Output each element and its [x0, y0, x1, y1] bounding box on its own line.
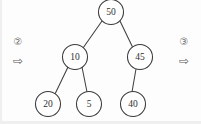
tree-node: 10 — [63, 45, 88, 70]
tree-edge — [82, 67, 87, 92]
tree-node: 50 — [99, 0, 124, 25]
right-arrow-icon: ⇨ — [13, 54, 23, 68]
right-margin-marker: ③ ⇨ — [179, 36, 189, 68]
left-margin-marker: ② ⇨ — [13, 36, 23, 68]
tree-edge — [132, 69, 136, 92]
circled-number-three-icon: ③ — [180, 36, 189, 47]
tree-node: 5 — [77, 92, 102, 117]
tree-node: 45 — [128, 45, 153, 70]
tree-edge — [55, 67, 68, 94]
right-arrow-icon: ⇨ — [179, 54, 189, 68]
binary-tree-diagram: 50104520540 ② ⇨ ③ ⇨ — [0, 0, 201, 124]
node-label: 5 — [87, 99, 92, 109]
tree-edge — [83, 21, 102, 48]
node-label: 50 — [106, 7, 116, 17]
node-label: 10 — [70, 52, 80, 62]
node-label: 45 — [135, 52, 145, 62]
node-label: 40 — [128, 99, 138, 109]
circled-number-two-icon: ② — [14, 36, 23, 47]
tree-node: 20 — [36, 92, 61, 117]
tree-diagram-canvas: 50104520540 ② ⇨ ③ ⇨ — [0, 0, 201, 124]
tree-node: 40 — [121, 92, 146, 117]
tree-nodes: 50104520540 — [36, 0, 153, 117]
node-label: 20 — [43, 99, 53, 109]
tree-edge — [120, 21, 133, 48]
